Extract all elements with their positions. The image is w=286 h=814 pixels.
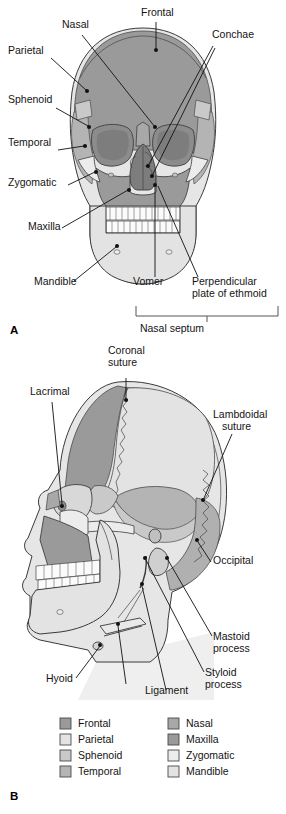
sphenoid-bone-left xyxy=(75,100,92,120)
label-coronal-suture-line2: suture xyxy=(108,356,137,368)
label-styloid-process-line1: Styloid xyxy=(205,666,237,678)
label-lacrimal: Lacrimal xyxy=(30,385,70,397)
label-lambdoidal-suture-line2: suture xyxy=(222,420,251,432)
label-styloid-process-line2: process xyxy=(205,678,242,690)
legend-item-nasal[interactable]: Nasal xyxy=(168,717,213,729)
label-mastoid-process-line2: process xyxy=(213,642,250,654)
sphenoid-bone-right xyxy=(194,100,211,120)
label-temporal-a: Temporal xyxy=(8,136,51,148)
legend-label-mandible: Mandible xyxy=(186,765,229,777)
legend-item-parietal[interactable]: Parietal xyxy=(60,733,114,745)
legend-swatch-maxilla xyxy=(168,734,179,745)
nasal-bone xyxy=(136,122,150,146)
infraorbital-foramen-right xyxy=(172,173,177,177)
label-nasal-a: Nasal xyxy=(62,18,89,30)
label-perpendicular-plate-line2: plate of ethmoid xyxy=(192,287,267,299)
legend-swatch-parietal xyxy=(60,734,71,745)
label-sphenoid-a: Sphenoid xyxy=(8,93,53,105)
legend-label-parietal: Parietal xyxy=(78,733,114,745)
nasal-septum-bracket xyxy=(136,306,278,322)
panel-b-illustration xyxy=(23,378,232,700)
panel-letter-a: A xyxy=(10,324,18,336)
mental-foramen-left xyxy=(114,250,120,254)
legend-swatch-frontal xyxy=(60,718,71,729)
legend-label-maxilla: Maxilla xyxy=(186,733,219,745)
legend-label-sphenoid: Sphenoid xyxy=(78,749,123,761)
lower-teeth-row xyxy=(106,221,180,233)
label-occipital: Occipital xyxy=(213,554,253,566)
legend-label-nasal: Nasal xyxy=(186,717,213,729)
legend: Frontal Parietal Sphenoid Temporal Nasal xyxy=(60,717,234,777)
legend-label-frontal: Frontal xyxy=(78,717,111,729)
legend-item-mandible[interactable]: Mandible xyxy=(168,765,229,777)
mental-foramen-right xyxy=(166,250,172,254)
label-conchae: Conchae xyxy=(212,28,254,40)
label-mastoid-process-line1: Mastoid xyxy=(213,630,250,642)
label-vomer: Vomer xyxy=(133,275,164,287)
external-auditory-meatus xyxy=(149,529,161,543)
skull-anatomy-figure: Nasal Frontal Conchae Parietal Sphenoid … xyxy=(0,0,286,814)
legend-column-right: Nasal Maxilla Zygomatic Mandible xyxy=(168,717,234,777)
legend-swatch-mandible xyxy=(168,766,179,777)
label-coronal-suture-line1: Coronal xyxy=(108,344,145,356)
label-lambdoidal-suture-line1: Lambdoidal xyxy=(213,408,267,420)
legend-swatch-temporal xyxy=(60,766,71,777)
legend-item-zygomatic[interactable]: Zygomatic xyxy=(168,749,234,761)
label-hyoid: Hyoid xyxy=(46,672,73,684)
legend-label-zygomatic: Zygomatic xyxy=(186,749,234,761)
label-nasal-septum: Nasal septum xyxy=(140,322,204,334)
legend-swatch-nasal xyxy=(168,718,179,729)
panel-letter-b: B xyxy=(10,790,18,802)
legend-item-maxilla[interactable]: Maxilla xyxy=(168,733,219,745)
label-frontal-a: Frontal xyxy=(141,6,174,18)
label-zygomatic-a: Zygomatic xyxy=(8,176,56,188)
label-perpendicular-plate-line1: Perpendicular xyxy=(192,275,257,287)
label-parietal-a: Parietal xyxy=(8,44,44,56)
legend-column-left: Frontal Parietal Sphenoid Temporal xyxy=(60,717,123,777)
legend-swatch-zygomatic xyxy=(168,750,179,761)
legend-item-temporal[interactable]: Temporal xyxy=(60,765,121,777)
legend-label-temporal: Temporal xyxy=(78,765,121,777)
label-mandible-a: Mandible xyxy=(34,275,77,287)
orbit-left-deep xyxy=(97,130,129,160)
legend-swatch-sphenoid xyxy=(60,750,71,761)
legend-item-frontal[interactable]: Frontal xyxy=(60,717,111,729)
infraorbital-foramen-left xyxy=(108,173,113,177)
label-ligament: Ligament xyxy=(145,684,188,696)
legend-item-sphenoid[interactable]: Sphenoid xyxy=(60,749,123,761)
label-maxilla-a: Maxilla xyxy=(28,220,61,232)
mental-foramen-lateral xyxy=(57,610,63,615)
